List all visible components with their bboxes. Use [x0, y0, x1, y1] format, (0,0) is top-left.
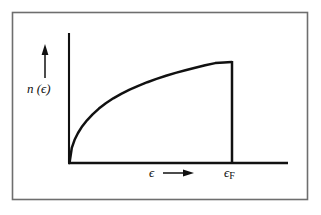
figure-container: n (ϵ) ϵ ϵF	[0, 0, 321, 215]
density-of-states-figure	[0, 0, 321, 215]
y-axis-label: n (ϵ)	[27, 82, 51, 95]
figure-background	[0, 0, 321, 215]
x-axis-label: ϵ	[149, 166, 154, 179]
fermi-energy-subscript: F	[229, 170, 235, 181]
fermi-energy-label: ϵF	[224, 166, 235, 181]
